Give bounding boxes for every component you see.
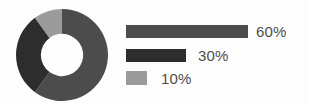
legend-label-30: 30% (198, 48, 229, 63)
legend-label-60: 60% (256, 24, 287, 39)
legend-swatch-bar-60 (126, 25, 248, 38)
legend-swatch-bar-30 (126, 49, 186, 62)
donut-hole (42, 35, 83, 76)
legend-item-30[interactable]: 30% (126, 47, 229, 63)
chart-figure: 60% 30% 10% (0, 0, 310, 105)
legend-label-10: 10% (161, 71, 192, 86)
legend-item-10[interactable]: 10% (126, 70, 192, 86)
legend-item-60[interactable]: 60% (126, 23, 287, 39)
donut-chart-svg (16, 9, 108, 101)
chart-legend: 60% 30% 10% (126, 21, 310, 93)
donut-chart (16, 9, 108, 101)
legend-swatch-bar-10 (126, 71, 147, 85)
